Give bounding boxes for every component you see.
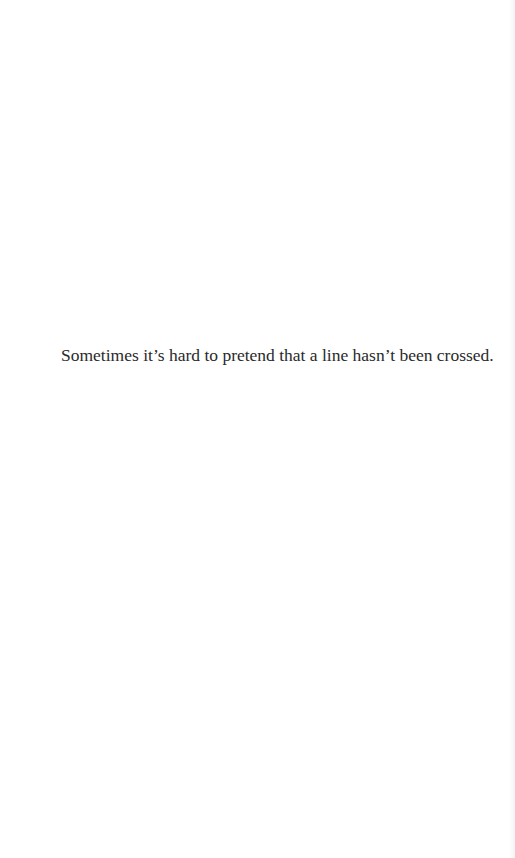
epigraph-text: Sometimes it’s hard to pretend that a li… xyxy=(61,345,494,366)
book-page: Sometimes it’s hard to pretend that a li… xyxy=(0,0,515,858)
page-edge-shadow xyxy=(509,0,515,858)
